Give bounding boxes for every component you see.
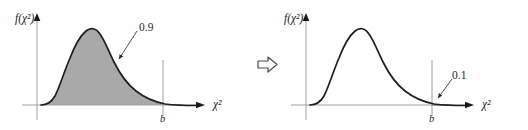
y-axis-arrowhead-left xyxy=(34,13,41,21)
area-label-right: 0.1 xyxy=(452,69,467,81)
threshold-label-right: b xyxy=(429,113,434,124)
x-axis-label-left: χ² xyxy=(212,98,222,111)
y-axis-label-right: f(χ²) xyxy=(284,12,304,25)
density-curve-right xyxy=(310,29,465,106)
threshold-label-left: b xyxy=(160,113,165,124)
x-axis-arrowhead-right xyxy=(465,102,474,109)
right-arrow-icon xyxy=(258,57,277,72)
annotation-leader-right xyxy=(438,79,452,98)
shaded-area-right xyxy=(310,29,465,106)
x-axis-arrowhead-left xyxy=(196,102,205,109)
panel-left: 0.9 f(χ²) χ² b xyxy=(15,12,222,124)
chi-square-tail-area-figure: 0.9 f(χ²) χ² b 0.1 f(χ²) χ² b xyxy=(0,0,528,130)
y-axis-arrowhead-right xyxy=(303,13,310,21)
area-label-left: 0.9 xyxy=(139,21,154,33)
x-axis-label-right: χ² xyxy=(481,98,491,111)
annotation-leader-left xyxy=(119,31,137,59)
y-axis-label-left: f(χ²) xyxy=(15,12,35,25)
panel-right: 0.1 f(χ²) χ² b xyxy=(284,12,491,124)
